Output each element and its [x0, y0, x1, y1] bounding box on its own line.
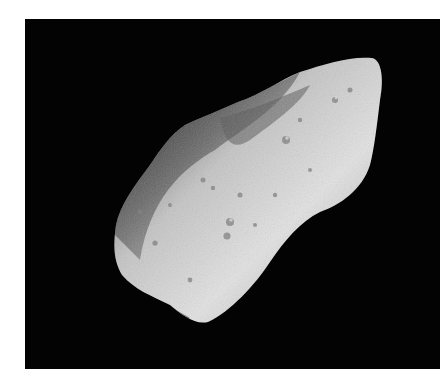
asteroid-photo [0, 0, 442, 376]
asteroid-body [100, 50, 400, 340]
